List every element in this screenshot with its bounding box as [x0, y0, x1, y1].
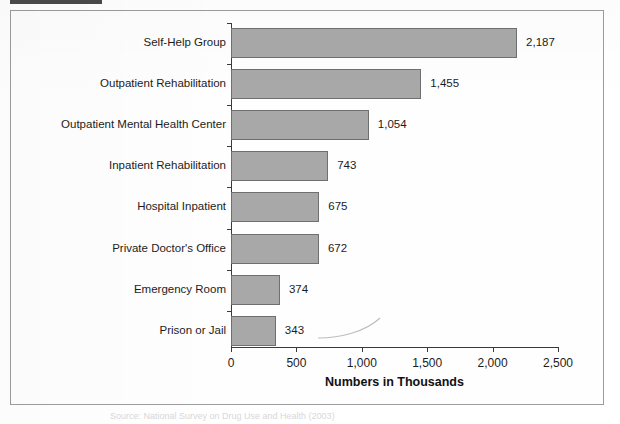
category-label: Private Doctor's Office	[8, 243, 226, 255]
bar	[231, 192, 319, 222]
y-axis-tick	[227, 187, 232, 188]
category-label-wrap: Outpatient Rehabilitation	[8, 78, 226, 90]
category-label-wrap: Emergency Room	[8, 284, 226, 296]
x-axis-tick-label: 2,500	[543, 357, 573, 369]
category-label-wrap: Outpatient Mental Health Center	[8, 119, 226, 131]
category-label-wrap: Prison or Jail	[8, 325, 226, 337]
x-axis-tick-label: 1,500	[412, 357, 442, 369]
bar	[231, 151, 328, 181]
x-axis-tick	[558, 347, 559, 352]
x-axis-line	[231, 347, 558, 348]
x-axis-tick-label: 500	[286, 357, 306, 369]
category-label-wrap: Self-Help Group	[8, 37, 226, 49]
category-label-wrap: Hospital Inpatient	[8, 201, 226, 213]
bar	[231, 275, 280, 305]
bar	[231, 110, 369, 140]
bar-value-label: 343	[285, 325, 304, 337]
x-axis-tick	[231, 347, 232, 352]
y-axis-tick	[227, 311, 232, 312]
scan-artifact-curve	[310, 310, 430, 350]
bar-value-label: 743	[337, 160, 356, 172]
bar	[231, 69, 421, 99]
bar-value-label: 2,187	[526, 37, 555, 49]
category-label: Prison or Jail	[8, 325, 226, 337]
y-axis-tick	[227, 23, 232, 24]
bar-value-label: 1,054	[378, 119, 407, 131]
bar	[231, 316, 276, 346]
x-axis-tick-label: 1,000	[347, 357, 377, 369]
x-axis-title: Numbers in Thousands	[231, 376, 558, 389]
figure-caption: Source: National Survey on Drug Use and …	[110, 412, 335, 421]
y-axis-tick	[227, 105, 232, 106]
category-label: Hospital Inpatient	[8, 201, 226, 213]
category-label-wrap: Private Doctor's Office	[8, 243, 226, 255]
bar-value-label: 675	[328, 201, 347, 213]
x-axis-tick-label: 2,000	[478, 357, 508, 369]
x-axis-tick	[362, 347, 363, 352]
category-label: Outpatient Rehabilitation	[8, 78, 226, 90]
x-axis-tick	[493, 347, 494, 352]
x-axis-tick	[296, 347, 297, 352]
y-axis-tick	[227, 270, 232, 271]
category-label-wrap: Inpatient Rehabilitation	[8, 160, 226, 172]
x-axis-tick-label: 0	[228, 357, 235, 369]
y-axis-tick	[227, 229, 232, 230]
bar	[231, 28, 517, 58]
category-label: Outpatient Mental Health Center	[8, 119, 226, 131]
category-label: Inpatient Rehabilitation	[8, 160, 226, 172]
bar	[231, 234, 319, 264]
category-label: Emergency Room	[8, 284, 226, 296]
x-axis-tick	[427, 347, 428, 352]
bar-value-label: 374	[289, 284, 308, 296]
y-axis-tick	[227, 64, 232, 65]
bar-value-label: 672	[328, 243, 347, 255]
y-axis-tick	[227, 146, 232, 147]
bar-chart: Self-Help GroupOutpatient Rehabilitation…	[0, 0, 620, 424]
category-label: Self-Help Group	[8, 37, 226, 49]
bar-value-label: 1,455	[430, 78, 459, 90]
